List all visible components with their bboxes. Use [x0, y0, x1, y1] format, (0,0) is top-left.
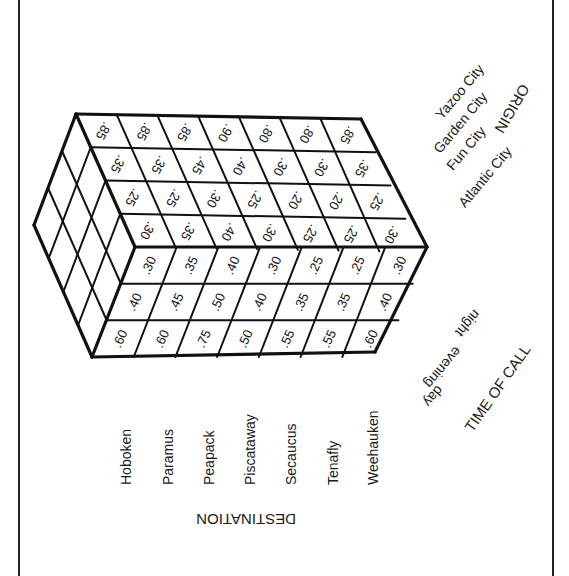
top-cell-value: .25: [367, 190, 389, 213]
top-cell-value: .25: [122, 186, 144, 209]
front-cell-value: .50: [235, 327, 256, 350]
top-cell-value: .25: [244, 188, 266, 211]
front-cell-value: .25: [305, 254, 326, 277]
destination-label-piscataway: Piscataway: [242, 414, 258, 485]
front-cell-value: .60: [109, 327, 130, 350]
top-cell-value: .25: [341, 223, 363, 246]
top-cell-value: .30: [311, 156, 333, 179]
destination-label-weehauken: Weehauken: [365, 411, 381, 485]
destination-label-paramus: Paramus: [160, 429, 176, 485]
top-cell-value: .80: [296, 123, 318, 146]
top-cell-value: .30: [381, 223, 403, 246]
destination-label-secaucus: Secaucus: [283, 424, 299, 485]
top-cell-value: .85: [93, 119, 115, 142]
cube-edge: [34, 225, 92, 357]
front-cell-value: .30: [138, 254, 159, 277]
top-cell-value: .20: [285, 189, 307, 212]
top-face-grid: .85.85.85.90.80.80.85.35.35.45.40.30.30.…: [91, 115, 406, 252]
front-cell-value: .60: [151, 327, 172, 350]
destination-label-peapack: Peapack: [201, 431, 217, 485]
front-cell-value: .40: [124, 291, 145, 314]
top-cell-value: .20: [326, 189, 348, 212]
front-cell-value: .25: [347, 254, 368, 277]
front-cell-value: .30: [388, 254, 409, 277]
top-cell-value: .45: [189, 154, 211, 177]
top-cell-value: .30: [259, 221, 281, 244]
front-cell-value: .35: [180, 254, 201, 277]
top-cell-value: .25: [300, 222, 322, 245]
top-cell-value: .90: [215, 122, 237, 145]
top-cell-value: .30: [204, 187, 226, 210]
destination-axis-title: DESTINATION: [196, 511, 296, 528]
front-cell-value: .75: [193, 327, 214, 350]
front-cell-value: .55: [318, 327, 339, 350]
cube-diagram: .85.85.85.90.80.80.85.35.35.45.40.30.30.…: [0, 0, 569, 576]
front-cell-value: .40: [249, 291, 270, 314]
top-cell-value: .40: [230, 155, 252, 178]
top-cell-value: .85: [337, 124, 359, 147]
top-cell-value: .35: [352, 157, 374, 180]
top-cell-value: .30: [137, 219, 159, 242]
front-face-grid: .30.35.40.30.25.25.30.40.45.50.40.35.35.…: [106, 247, 412, 357]
top-cell-value: .85: [174, 121, 196, 144]
top-cell-value: .25: [163, 187, 185, 210]
destination-label-tenafly: Tenafly: [325, 441, 341, 485]
front-cell-value: .40: [374, 291, 395, 314]
top-cell-value: .30: [270, 156, 292, 179]
top-cell-value: .35: [148, 153, 170, 176]
front-cell-value: .45: [165, 291, 186, 314]
top-cell-value: .40: [218, 221, 240, 244]
top-cell-value: .35: [107, 153, 129, 176]
top-cell-value: .85: [133, 120, 155, 143]
top-cell-value: .80: [256, 122, 278, 145]
front-cell-value: .40: [222, 254, 243, 277]
front-cell-value: .30: [263, 254, 284, 277]
front-cell-value: .35: [332, 291, 353, 314]
destination-label-hoboken: Hoboken: [118, 429, 134, 485]
left-face-grid: [48, 147, 121, 325]
front-cell-value: .50: [207, 291, 228, 314]
front-cell-value: .35: [291, 291, 312, 314]
top-cell-value: .35: [178, 220, 200, 243]
front-cell-value: .55: [276, 327, 297, 350]
left-col-divider: [48, 188, 107, 321]
